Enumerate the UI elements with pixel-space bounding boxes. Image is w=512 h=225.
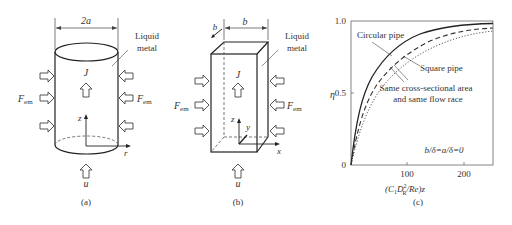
liquid-metal-label-line2: metal	[137, 43, 157, 53]
force-arrow-icon	[270, 99, 284, 111]
velocity-arrow-icon	[80, 164, 92, 178]
circular-pipe-label: Circular pipe	[357, 30, 404, 40]
current-j-label: J	[236, 69, 241, 80]
panel-c-efficiency-chart: 1.0 0.5 0 100 200 η (C1D2R/Re)z Circular…	[330, 16, 493, 207]
force-label-left: Fem	[173, 100, 189, 113]
liquid-metal-label-line1: Liquid	[285, 31, 309, 41]
force-label-right: Fem	[136, 93, 152, 106]
ytick-1: 1.0	[335, 16, 347, 26]
width-b-label: b	[243, 16, 248, 27]
ytick-0: 0	[342, 160, 347, 170]
xtick-200: 200	[457, 169, 471, 179]
caption-a: (a)	[81, 197, 91, 207]
force-arrow-icon	[119, 92, 133, 104]
x-axis-label: (C1D2R/Re)z	[385, 183, 426, 196]
caption-b: (b)	[233, 197, 244, 207]
width-2a-label: 2a	[81, 15, 91, 26]
y-axis-label: η	[330, 89, 335, 100]
force-arrow-icon	[119, 120, 133, 132]
force-label-right: Fem	[286, 100, 302, 113]
velocity-arrow-icon	[232, 164, 244, 178]
depth-b-label: b	[213, 22, 218, 32]
force-arrow-icon	[40, 70, 54, 82]
axis-z-label: z	[230, 114, 235, 124]
liquid-metal-label-line1: Liquid	[135, 31, 159, 41]
current-j-label: J	[84, 67, 89, 78]
liquid-metal-label-line2: metal	[287, 43, 307, 53]
same-area-label-line2: and same flow race	[393, 94, 463, 104]
current-arrow-icon	[232, 83, 244, 97]
axis-x-label: x	[276, 146, 281, 156]
force-arrow-icon	[119, 70, 133, 82]
xtick-100: 100	[400, 169, 414, 179]
axis-z-label: z	[77, 113, 82, 123]
force-label-left: Fem	[17, 93, 33, 106]
velocity-u-label: u	[84, 178, 89, 189]
parameter-annotation: b/δ=a/δ=0	[424, 145, 464, 155]
velocity-u-label: u	[236, 178, 241, 189]
current-arrow-icon	[80, 83, 92, 97]
force-arrow-icon	[270, 75, 284, 87]
force-arrow-icon	[270, 125, 284, 137]
force-arrow-icon	[195, 125, 209, 137]
ytick-05: 0.5	[335, 88, 347, 98]
force-arrow-icon	[40, 92, 54, 104]
caption-c: (c)	[413, 197, 423, 207]
square-pipe-label: Square pipe	[420, 63, 463, 73]
panel-b-square-duct-diagram: b b Liquid metal J Fem Fem	[173, 16, 309, 207]
panel-a-cylinder-diagram: 2a Liquid metal J Fem Fem z r u	[17, 15, 159, 207]
same-area-label-line1: Same cross-sectional area	[380, 83, 473, 93]
force-arrow-icon	[40, 120, 54, 132]
axis-y-label: y	[245, 122, 250, 132]
force-arrow-icon	[195, 75, 209, 87]
force-arrow-icon	[195, 99, 209, 111]
axis-r-label: r	[124, 148, 128, 158]
